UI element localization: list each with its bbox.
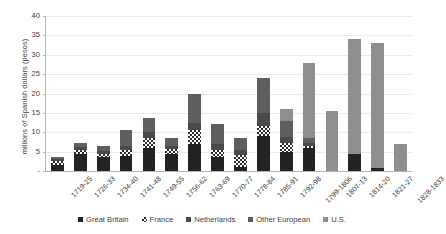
bar-group xyxy=(51,16,64,171)
y-axis-tick-label: 25 xyxy=(14,70,40,78)
bar-segment xyxy=(120,156,133,172)
y-axis-tick-label: 5 xyxy=(14,148,40,156)
bar-segment xyxy=(188,130,201,144)
x-axis-tick-label: 1741-48 xyxy=(139,175,163,199)
bar-group xyxy=(234,16,247,171)
x-axis-tick-label: 1749-55 xyxy=(162,175,186,199)
bar-group xyxy=(188,16,201,171)
y-axis-tick-label: - xyxy=(14,167,40,175)
bar-segment xyxy=(143,138,156,148)
bar-segment xyxy=(348,39,361,154)
bar-group xyxy=(371,16,384,171)
legend-label: Netherlands xyxy=(194,215,235,224)
bar-group xyxy=(143,16,156,171)
bar-segment xyxy=(234,155,247,167)
bar-segment xyxy=(280,109,293,121)
bar-group xyxy=(326,16,339,171)
bar-segment xyxy=(303,63,316,139)
bar-segment xyxy=(188,144,201,171)
bar-segment xyxy=(120,130,133,147)
bar-segment xyxy=(234,138,247,150)
bar-segment xyxy=(97,154,110,157)
bar-segment xyxy=(280,121,293,137)
y-axis-tick-label: 20 xyxy=(14,90,40,98)
bar-segment xyxy=(188,94,201,123)
x-axis-tick-label: 1778-84 xyxy=(253,175,277,199)
bar-segment xyxy=(394,144,407,171)
bar-segment xyxy=(371,168,384,171)
bar-group xyxy=(120,16,133,171)
bar-segment xyxy=(257,126,270,136)
legend-swatch-icon xyxy=(323,217,328,222)
bar-segment xyxy=(165,138,178,147)
legend-item[interactable]: U.S. xyxy=(323,215,346,224)
bar-segment xyxy=(97,146,110,151)
bar-segment xyxy=(234,167,247,171)
bar-segment xyxy=(51,161,64,164)
bar-segment xyxy=(120,150,133,156)
legend-label: U.S. xyxy=(331,215,346,224)
bar-group xyxy=(394,16,407,171)
legend-swatch-icon xyxy=(142,217,147,222)
x-axis-tick-label: 1770-77 xyxy=(230,175,254,199)
bar-segment xyxy=(74,147,87,149)
bar-segment xyxy=(211,124,224,143)
bar-group xyxy=(257,16,270,171)
bar-segment xyxy=(257,78,270,113)
bar-group xyxy=(280,16,293,171)
y-axis-tick-labels: -510152025303540 xyxy=(14,0,40,234)
bar-segment xyxy=(97,157,110,171)
plot-area xyxy=(45,16,412,172)
bar-group xyxy=(303,16,316,171)
bar-group xyxy=(74,16,87,171)
bar-segment xyxy=(257,113,270,127)
x-axis-tick-label: 1814-20 xyxy=(368,175,392,199)
bar-segment xyxy=(280,143,293,152)
y-axis-tick-label: 10 xyxy=(14,128,40,136)
bar-segment xyxy=(280,152,293,171)
x-axis-tick-label: 1734-40 xyxy=(116,175,140,199)
bar-segment xyxy=(143,132,156,137)
y-axis-tick-label: 15 xyxy=(14,109,40,117)
bar-segment xyxy=(165,149,178,153)
legend-swatch-icon xyxy=(248,217,253,222)
bar-segment xyxy=(165,146,178,149)
x-axis-tick-label: 1726-33 xyxy=(93,175,117,199)
legend-item[interactable]: Other European xyxy=(248,215,310,224)
x-axis-tick-label: 1785-91 xyxy=(276,175,300,199)
bar-group xyxy=(97,16,110,171)
x-axis-tick-label: 1756-62 xyxy=(185,175,209,199)
x-axis-tick-label: 1719-25 xyxy=(70,175,94,199)
bar-segment xyxy=(303,143,316,146)
bar-segment xyxy=(74,154,87,171)
legend-swatch-icon xyxy=(78,217,83,222)
bar-segment xyxy=(51,159,64,161)
x-axis-tick-label: 1792-98 xyxy=(299,175,323,199)
bar-segment xyxy=(74,150,87,155)
legend-item[interactable]: Great Britain xyxy=(78,215,129,224)
y-axis-tick-label: 30 xyxy=(14,51,40,59)
bar-group xyxy=(165,16,178,171)
bar-segment xyxy=(120,146,133,149)
bar-segment xyxy=(280,137,293,143)
bar-segment xyxy=(211,144,224,150)
bar-segment xyxy=(51,165,64,171)
bar-segment xyxy=(143,118,156,132)
chart-legend: Great BritainFranceNetherlandsOther Euro… xyxy=(0,215,424,224)
x-axis-tick-label: 1763-69 xyxy=(207,175,231,199)
bar-segment xyxy=(348,154,361,171)
x-axis-tick-label: 1821-27 xyxy=(390,175,414,199)
legend-item[interactable]: France xyxy=(142,215,174,224)
bar-segment xyxy=(234,150,247,155)
bar-segment xyxy=(165,154,178,171)
bar-segment xyxy=(303,148,316,171)
y-axis-tick-label: 35 xyxy=(14,31,40,39)
y-axis-tick-label: 40 xyxy=(14,12,40,20)
bar-segment xyxy=(188,123,201,131)
bar-segment xyxy=(51,157,64,159)
legend-swatch-icon xyxy=(186,217,191,222)
legend-item[interactable]: Netherlands xyxy=(186,215,235,224)
y-axis-tick-mark xyxy=(43,171,46,172)
bar-series-container xyxy=(46,16,412,171)
